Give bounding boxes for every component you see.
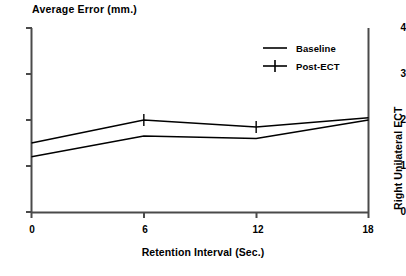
plot-area bbox=[0, 0, 406, 276]
series-layer bbox=[32, 114, 369, 157]
series-line bbox=[32, 120, 369, 157]
series-line bbox=[32, 118, 369, 143]
chart-figure: Average Error (mm.) 4 3 2 1 0 0 6 12 18 … bbox=[0, 0, 406, 276]
series-baseline bbox=[32, 120, 369, 157]
